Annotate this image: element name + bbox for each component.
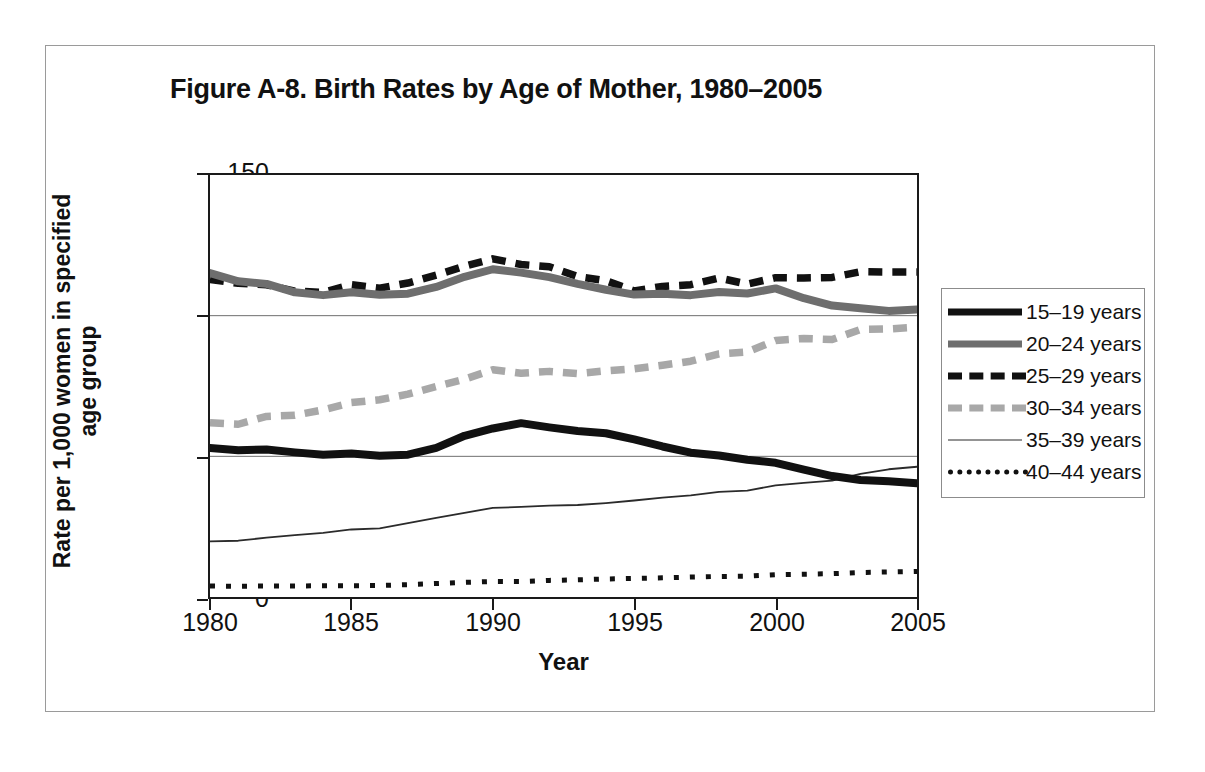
legend-swatch-icon-25-29 xyxy=(948,369,1022,383)
series-line xyxy=(210,259,917,292)
figure-frame: Figure A-8. Birth Rates by Age of Mother… xyxy=(45,45,1155,712)
x-tick-label-2005: 2005 xyxy=(868,608,968,637)
legend-label-15-19: 15–19 years xyxy=(1026,300,1142,324)
y-axis-title-line1: Rate per 1,000 women in specified xyxy=(50,146,76,616)
y-tick-mark-100 xyxy=(197,315,208,317)
legend-item-20-24[interactable]: 20–24 years xyxy=(942,328,1144,360)
legend-swatch-icon-20-24 xyxy=(948,337,1022,351)
x-tick-label-2000: 2000 xyxy=(727,608,827,637)
legend-label-30-34: 30–34 years xyxy=(1026,396,1142,420)
legend-label-40-44: 40–44 years xyxy=(1026,460,1142,484)
x-axis-title: Year xyxy=(208,648,919,676)
legend-swatch-icon-30-34 xyxy=(948,401,1022,415)
legend-item-15-19[interactable]: 15–19 years xyxy=(942,296,1144,328)
legend-swatch-icon-40-44 xyxy=(948,465,1022,479)
x-tick-label-1990: 1990 xyxy=(443,608,543,637)
x-tick-label-1980: 1980 xyxy=(160,608,260,637)
chart-title: Figure A-8. Birth Rates by Age of Mother… xyxy=(46,74,946,105)
legend-swatch-icon-15-19 xyxy=(948,305,1022,319)
legend-item-30-34[interactable]: 30–34 years xyxy=(942,392,1144,424)
legend-label-20-24: 20–24 years xyxy=(1026,332,1142,356)
legend-item-40-44[interactable]: 40–44 years xyxy=(942,456,1144,488)
x-tick-label-1985: 1985 xyxy=(301,608,401,637)
legend: 15–19 years 20–24 years 25–29 years 30–3… xyxy=(941,288,1145,498)
series-line xyxy=(210,571,917,586)
series-line xyxy=(210,467,917,542)
y-tick-mark-150 xyxy=(197,173,208,175)
legend-label-35-39: 35–39 years xyxy=(1026,428,1142,452)
legend-item-25-29[interactable]: 25–29 years xyxy=(942,360,1144,392)
y-tick-mark-0 xyxy=(197,599,208,601)
plot-lines xyxy=(210,175,917,597)
y-tick-mark-50 xyxy=(197,457,208,459)
legend-label-25-29: 25–29 years xyxy=(1026,364,1142,388)
y-axis-title-line2: age group xyxy=(76,146,102,616)
y-axis-title: Rate per 1,000 women in specified age gr… xyxy=(50,146,120,616)
series-line xyxy=(210,423,917,483)
legend-item-35-39[interactable]: 35–39 years xyxy=(942,424,1144,456)
plot-area xyxy=(208,173,919,599)
legend-swatch-icon-35-39 xyxy=(948,433,1022,447)
series-line xyxy=(210,327,917,424)
x-tick-label-1995: 1995 xyxy=(585,608,685,637)
